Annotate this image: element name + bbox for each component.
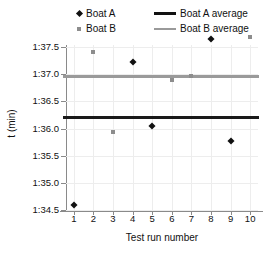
x-axis-tick <box>191 211 192 215</box>
x-axis-tick <box>172 211 173 215</box>
legend-item-boat-b-average[interactable]: Boat B average <box>154 21 269 36</box>
x-axis-line <box>60 211 263 212</box>
plot-area <box>66 47 258 210</box>
x-axis-tick-label: 7 <box>181 214 201 224</box>
x-axis-tick <box>133 211 134 215</box>
x-axis-tick-labels: 12345678910 <box>66 214 258 226</box>
average-line-boat-b <box>63 75 259 78</box>
x-axis-tick <box>231 211 232 215</box>
chart-container: Boat A Boat B Boat A average Boat B aver… <box>0 0 269 253</box>
x-axis-tick-label: 1 <box>64 214 84 224</box>
gridline-vertical <box>133 45 134 210</box>
x-axis-tick-label: 9 <box>221 214 241 224</box>
y-axis-tick-label: 1:37.5 <box>33 42 59 52</box>
data-point-boat-a <box>227 137 234 144</box>
legend-label-boat-b: Boat B <box>86 23 116 34</box>
data-point-boat-b <box>111 130 115 134</box>
gridline-vertical <box>191 45 192 210</box>
y-axis-tick <box>61 129 66 130</box>
x-axis-tick <box>113 211 114 215</box>
chart-legend: Boat A Boat B Boat A average Boat B aver… <box>72 6 268 40</box>
line-swatch-dark-icon <box>154 12 176 15</box>
x-axis-tick <box>152 211 153 215</box>
x-axis-tick-label: 6 <box>162 214 182 224</box>
x-axis-tick-label: 4 <box>123 214 143 224</box>
legend-item-boat-b[interactable]: Boat B <box>72 21 152 36</box>
x-axis-tick-label: 8 <box>201 214 221 224</box>
gridline-horizontal <box>66 47 258 48</box>
x-axis-tick <box>211 211 212 215</box>
x-axis-tick <box>74 211 75 215</box>
y-axis-tick <box>61 183 66 184</box>
x-axis-tick-label: 3 <box>103 214 123 224</box>
legend-label-boat-b-average: Boat B average <box>180 23 249 34</box>
y-axis-tick <box>61 101 66 102</box>
diamond-marker-icon <box>72 11 86 16</box>
y-axis-tick-label: 1:35.0 <box>33 178 59 188</box>
data-point-boat-a <box>129 59 136 66</box>
x-axis-tick <box>250 211 251 215</box>
gridline-horizontal <box>66 129 258 130</box>
y-axis-tick-label: 1:36.5 <box>33 96 59 106</box>
y-axis-tick <box>61 156 66 157</box>
square-marker-icon <box>72 27 86 31</box>
gridline-vertical <box>93 45 94 210</box>
y-axis-tick-label: 1:34.5 <box>33 205 59 215</box>
gridline-vertical <box>172 45 173 210</box>
y-axis-tick <box>61 47 66 48</box>
y-axis-tick-label: 1:36.0 <box>33 124 59 134</box>
legend-item-boat-a[interactable]: Boat A <box>72 6 152 21</box>
line-swatch-gray-icon <box>154 28 176 30</box>
x-axis-title: Test run number <box>66 232 258 243</box>
gridline-vertical <box>113 45 114 210</box>
gridline-horizontal <box>66 183 258 184</box>
gridline-vertical <box>211 45 212 210</box>
average-line-boat-a <box>63 116 259 119</box>
legend-item-boat-a-average[interactable]: Boat A average <box>154 6 269 21</box>
gridline-vertical <box>74 45 75 210</box>
gridline-horizontal <box>66 101 258 102</box>
data-point-boat-b <box>170 78 174 82</box>
x-axis-tick <box>93 211 94 215</box>
legend-label-boat-a-average: Boat A average <box>180 8 248 19</box>
data-point-boat-b <box>91 50 95 54</box>
x-axis-tick-label: 2 <box>83 214 103 224</box>
data-point-boat-a <box>70 202 77 209</box>
x-axis-tick-label: 5 <box>142 214 162 224</box>
y-axis-title: t (min) <box>6 97 17 151</box>
y-axis-tick-label: 1:37.0 <box>33 69 59 79</box>
gridline-vertical <box>250 45 251 210</box>
gridline-horizontal <box>66 156 258 157</box>
x-axis-tick-label: 10 <box>240 214 260 224</box>
y-axis-tick <box>61 210 66 211</box>
gridline-vertical <box>231 45 232 210</box>
legend-label-boat-a: Boat A <box>86 8 115 19</box>
y-axis-tick-label: 1:35.5 <box>33 151 59 161</box>
gridline-horizontal <box>66 210 258 211</box>
data-point-boat-b <box>248 35 252 39</box>
data-point-boat-b <box>189 74 193 78</box>
